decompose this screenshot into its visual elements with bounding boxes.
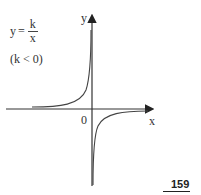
curve-quadrant-4 xyxy=(93,111,148,185)
y-axis-label: y xyxy=(81,12,87,24)
numerator: k xyxy=(30,18,36,31)
function-formula: y = k x xyxy=(10,18,38,45)
fraction: k x xyxy=(28,18,38,45)
x-axis-label: x xyxy=(149,115,155,127)
curve-quadrant-2 xyxy=(32,30,91,107)
origin-label: 0 xyxy=(81,114,87,126)
condition-label: (k < 0) xyxy=(10,52,43,67)
formula-lhs: y xyxy=(10,24,16,39)
denominator: x xyxy=(30,32,36,45)
page-number: 159 xyxy=(163,178,190,192)
formula-equals: = xyxy=(18,24,25,39)
